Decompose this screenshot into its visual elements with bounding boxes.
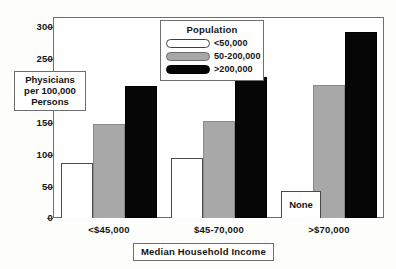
y-axis-title-line-2: per 100,000 [17,85,83,96]
legend-entry-mid: 50-200,000 [166,50,258,62]
bar-g2-pop-large [235,77,267,218]
legend-swatch-white-icon [166,39,210,48]
bar-chart: 300 250 150 100 50 0 None <$45,000 $45-7… [0,0,396,269]
bar-g3-pop-large [345,32,377,218]
y-axis-title-line-3: Persons [17,96,83,107]
bar-g1-pop-small [61,163,93,219]
y-axis: 300 250 150 100 50 0 [0,0,53,269]
x-tick-label-2: $45-70,000 [164,224,274,235]
y-tick-label-100: 100 [25,150,53,160]
y-tick-label-0: 0 [25,213,53,223]
none-annotation-label: None [289,199,313,210]
legend-label-small: <50,000 [214,38,247,48]
legend: Population <50,000 50-200,000 >200,000 [160,20,264,81]
legend-entry-small: <50,000 [166,37,258,49]
y-tick-label-300: 300 [25,22,53,32]
x-tick-label-1: <$45,000 [54,224,164,235]
legend-swatch-gray-icon [166,52,210,61]
legend-swatch-black-icon [166,65,210,74]
bar-g1-pop-mid [93,124,125,218]
y-axis-title: Physicians per 100,000 Persons [14,71,86,111]
legend-label-large: >200,000 [214,64,253,74]
x-axis-title: Median Household Income [133,243,274,261]
none-annotation-box: None [281,191,321,218]
y-axis-title-line-1: Physicians [17,74,83,85]
legend-entry-large: >200,000 [166,63,258,75]
bar-g2-pop-small [171,158,203,218]
legend-label-mid: 50-200,000 [214,51,261,61]
bar-group-income-3: None [274,18,384,218]
bar-g1-pop-large [125,86,157,218]
bar-group-income-1 [54,18,164,218]
y-tick-label-150: 150 [25,118,53,128]
y-tick-label-250: 250 [25,54,53,64]
y-tick-label-50: 50 [25,182,53,192]
bar-g2-pop-mid [203,121,235,218]
legend-title: Population [166,24,258,35]
x-tick-label-3: >$70,000 [274,224,384,235]
